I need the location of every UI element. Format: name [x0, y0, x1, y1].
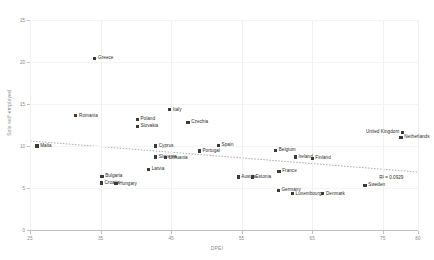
data-point-marker — [399, 136, 402, 139]
data-point-label: Spain — [222, 142, 234, 147]
y-tick-mark — [27, 188, 30, 189]
y-tick-mark — [27, 146, 30, 147]
y-tick-mark — [27, 104, 30, 105]
gridline-horizontal — [30, 104, 418, 105]
gridline-vertical — [312, 20, 313, 230]
data-point-marker — [277, 189, 280, 192]
data-point-label: Cyprus — [159, 143, 174, 148]
gridline-vertical — [30, 20, 31, 230]
y-tick-label: 15 — [16, 102, 25, 107]
data-point-marker — [186, 121, 189, 124]
data-point-label: Bulgaria — [105, 173, 122, 178]
data-point-label: Denmark — [326, 191, 345, 196]
data-point-marker — [136, 125, 139, 128]
data-point-label: United Kingdom — [366, 129, 399, 134]
data-point-label: Czechia — [191, 119, 208, 124]
data-point-marker — [277, 170, 280, 173]
x-tick-mark — [312, 231, 313, 234]
x-tick-label: 35 — [98, 236, 103, 241]
data-point-label: Greece — [98, 55, 113, 60]
x-tick-label: 55 — [239, 236, 244, 241]
data-point-marker — [274, 149, 277, 152]
data-point-label: Italy — [173, 107, 182, 112]
y-tick-label: 25 — [16, 18, 25, 23]
gridline-horizontal — [30, 20, 418, 21]
gridline-horizontal — [30, 62, 418, 63]
data-point-marker — [136, 118, 139, 121]
y-tick-label: 5 — [16, 186, 25, 191]
data-point-label: Sweden — [368, 182, 385, 187]
r-squared-annotation: R² = 0.0929 — [379, 175, 403, 180]
data-point-label: France — [282, 168, 297, 173]
data-point-marker — [311, 157, 314, 160]
x-tick-label: 65 — [310, 236, 315, 241]
data-point-marker — [321, 192, 324, 195]
x-axis-line — [30, 230, 418, 231]
data-point-label: Latvia — [152, 166, 165, 171]
data-point-label: Portugal — [202, 148, 220, 153]
gridline-vertical — [242, 20, 243, 230]
x-tick-mark — [101, 231, 102, 234]
data-point-marker — [154, 144, 157, 147]
y-tick-label: 20 — [16, 60, 25, 65]
x-tick-label: 25 — [27, 236, 32, 241]
data-point-marker — [164, 156, 167, 159]
y-tick-mark — [27, 62, 30, 63]
data-point-label: Hungary — [119, 181, 137, 186]
x-tick-label: 75 — [380, 236, 385, 241]
plot-area: MaltaRomaniaGreeceBulgariaCroatiaHungary… — [30, 20, 418, 230]
x-tick-label: 80 — [415, 236, 420, 241]
scatter-chart: MaltaRomaniaGreeceBulgariaCroatiaHungary… — [0, 0, 434, 260]
x-tick-mark — [418, 231, 419, 234]
gridline-vertical — [101, 20, 102, 230]
data-point-label: Belgium — [279, 147, 296, 152]
y-tick-label: 0 — [16, 228, 25, 233]
data-point-label: Estonia — [255, 174, 271, 179]
data-point-marker — [114, 182, 117, 185]
data-point-marker — [251, 175, 254, 178]
x-tick-label: 45 — [168, 236, 173, 241]
data-point-marker — [154, 155, 157, 158]
data-point-label: Finland — [315, 155, 330, 160]
x-axis-title: DPEI — [0, 245, 434, 251]
data-point-label: Netherlands — [404, 134, 429, 139]
data-point-marker — [217, 144, 220, 147]
data-point-marker — [100, 181, 103, 184]
data-point-marker — [363, 184, 366, 187]
data-point-label: Lithuania — [169, 155, 188, 160]
trendline — [30, 20, 418, 230]
data-point-label: Romania — [79, 113, 98, 118]
gridline-horizontal — [30, 188, 418, 189]
data-point-marker — [291, 192, 294, 195]
data-point-marker — [198, 149, 201, 152]
gridline-vertical — [383, 20, 384, 230]
data-point-marker — [74, 114, 77, 117]
data-point-label: Malta — [40, 143, 51, 148]
data-point-label: Poland — [140, 116, 155, 121]
data-point-label: Luxembourg — [296, 191, 322, 196]
x-tick-mark — [383, 231, 384, 234]
gridline-vertical — [418, 20, 419, 230]
data-point-marker — [93, 57, 96, 60]
data-point-marker — [147, 168, 150, 171]
y-tick-label: 10 — [16, 144, 25, 149]
x-tick-mark — [30, 231, 31, 234]
data-point-marker — [35, 144, 38, 147]
x-tick-mark — [242, 231, 243, 234]
x-tick-mark — [171, 231, 172, 234]
data-point-marker — [237, 175, 240, 178]
data-point-marker — [100, 175, 103, 178]
data-point-label: Slovakia — [140, 123, 158, 128]
gridline-vertical — [171, 20, 172, 230]
y-axis-title: Solo self-employed — [6, 58, 12, 168]
y-tick-mark — [27, 20, 30, 21]
data-point-marker — [168, 108, 171, 111]
data-point-marker — [294, 155, 297, 158]
y-tick-mark — [27, 230, 30, 231]
